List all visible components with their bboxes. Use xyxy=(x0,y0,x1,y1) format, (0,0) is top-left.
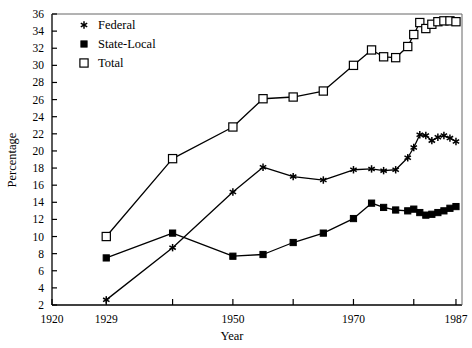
legend-label: State-Local xyxy=(98,37,156,51)
y-tick-label: 10 xyxy=(33,231,45,243)
data-point-marker xyxy=(393,207,399,213)
data-point-marker xyxy=(405,208,411,214)
data-point-marker xyxy=(349,61,357,69)
series-state-local xyxy=(103,200,459,261)
data-point-marker xyxy=(229,123,237,131)
y-tick-label: 34 xyxy=(33,25,45,37)
legend-label: Total xyxy=(98,56,124,70)
data-point-marker xyxy=(260,251,266,257)
x-tick-label: 1920 xyxy=(41,313,64,325)
x-axis-title: Year xyxy=(220,329,244,343)
y-tick-label: 20 xyxy=(33,145,45,157)
asterisk-marker-icon xyxy=(81,21,87,28)
y-axis-title: Percentage xyxy=(5,132,19,187)
y-tick-label: 24 xyxy=(33,111,45,123)
data-point-marker xyxy=(290,239,296,245)
data-point-marker xyxy=(404,42,412,50)
y-tick-label: 12 xyxy=(33,213,45,225)
y-tick-label: 28 xyxy=(33,76,45,88)
data-point-marker xyxy=(411,206,417,212)
y-tick-label: 14 xyxy=(33,196,45,208)
series-total xyxy=(102,17,460,241)
data-point-marker xyxy=(435,209,441,215)
x-tick-label: 1950 xyxy=(221,313,244,325)
data-point-marker xyxy=(289,93,297,101)
y-tick-label: 4 xyxy=(38,282,44,294)
data-point-marker xyxy=(380,53,388,61)
y-tick-label: 30 xyxy=(33,59,45,71)
data-point-marker xyxy=(368,200,374,206)
data-point-marker xyxy=(381,204,387,210)
legend-label: Federal xyxy=(98,18,136,32)
data-point-marker xyxy=(429,211,435,217)
open-square-marker-icon xyxy=(80,59,88,67)
legend-item-federal[interactable]: Federal xyxy=(81,18,136,32)
y-tick-label: 26 xyxy=(33,94,45,106)
chart-legend: FederalState-LocalTotal xyxy=(80,18,156,70)
x-tick-label: 1929 xyxy=(95,313,118,325)
data-point-marker xyxy=(410,30,418,38)
data-point-marker xyxy=(230,253,236,259)
data-point-marker xyxy=(103,255,109,261)
filled-square-marker-icon xyxy=(81,41,87,47)
data-point-marker xyxy=(259,95,267,103)
y-tick-label: 36 xyxy=(33,8,45,20)
legend-item-state-local[interactable]: State-Local xyxy=(81,37,156,51)
x-axis: 19201929195019701987 xyxy=(41,299,468,325)
data-point-marker xyxy=(169,230,175,236)
y-tick-label: 32 xyxy=(33,42,45,54)
data-point-marker xyxy=(441,208,447,214)
x-tick-label: 1987 xyxy=(444,313,467,325)
data-point-marker xyxy=(452,18,460,26)
y-tick-label: 16 xyxy=(33,179,45,191)
data-point-marker xyxy=(320,230,326,236)
series-line xyxy=(106,203,456,258)
y-tick-label: 6 xyxy=(38,265,44,277)
data-point-marker xyxy=(453,203,459,209)
data-point-marker xyxy=(453,138,459,145)
data-point-marker xyxy=(417,209,423,215)
legend-item-total[interactable]: Total xyxy=(80,56,124,70)
series-line xyxy=(106,21,456,237)
data-point-marker xyxy=(423,212,429,218)
x-tick-label: 1970 xyxy=(342,313,365,325)
data-point-marker xyxy=(102,232,110,240)
chart-container: 24681012141618202224262830323436 1920192… xyxy=(0,0,472,348)
y-tick-label: 8 xyxy=(38,248,44,260)
percentage-by-year-line-chart: 24681012141618202224262830323436 1920192… xyxy=(0,0,472,348)
y-tick-label: 22 xyxy=(33,128,45,140)
data-series-group xyxy=(102,17,460,304)
series-line xyxy=(106,135,456,300)
data-point-marker xyxy=(447,205,453,211)
data-point-marker xyxy=(367,46,375,54)
data-point-marker xyxy=(447,134,453,141)
data-point-marker xyxy=(319,87,327,95)
y-axis: 24681012141618202224262830323436 xyxy=(33,8,58,311)
series-federal xyxy=(103,131,459,304)
y-tick-label: 18 xyxy=(33,162,45,174)
data-point-marker xyxy=(350,215,356,221)
data-point-marker xyxy=(392,54,400,62)
y-tick-label: 2 xyxy=(38,299,44,311)
data-point-marker xyxy=(168,155,176,163)
